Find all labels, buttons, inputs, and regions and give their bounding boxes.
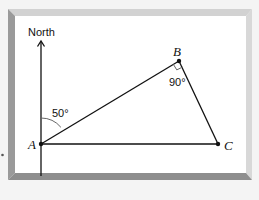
vertex-C-label: C [224, 138, 233, 153]
angle-label-50: 50° [52, 107, 69, 119]
vertex-A-label: A [27, 137, 36, 152]
stray-mark [1, 154, 4, 157]
vertex-B-dot [177, 59, 181, 63]
vertex-B-label: B [173, 44, 181, 59]
vertex-A-dot [39, 142, 43, 146]
diagram-panel [15, 16, 246, 173]
angle-label-90: 90° [169, 76, 186, 88]
bearing-diagram: North 50° 90° A B C [0, 0, 259, 200]
vertex-C-dot [216, 142, 220, 146]
north-label: North [28, 26, 55, 38]
